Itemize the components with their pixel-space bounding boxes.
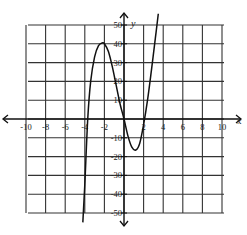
svg-text:4: 4 [161, 122, 166, 132]
function-graph: -10-8-6-4-22468105040302010-10-20-30-40-… [0, 0, 247, 235]
svg-text:-2: -2 [101, 122, 108, 132]
svg-text:8: 8 [200, 122, 204, 132]
svg-text:-10: -10 [20, 122, 31, 132]
svg-text:-40: -40 [111, 189, 122, 199]
svg-text:-30: -30 [111, 170, 122, 180]
svg-text:6: 6 [181, 122, 185, 132]
svg-text:10: 10 [218, 122, 227, 132]
y-axis-label: y [130, 18, 136, 29]
svg-text:-50: -50 [111, 208, 122, 218]
svg-text:-20: -20 [111, 152, 122, 162]
svg-text:40: 40 [114, 39, 123, 49]
x-axis-label: x [237, 116, 242, 126]
svg-text:30: 30 [114, 58, 123, 68]
svg-text:50: 50 [114, 20, 123, 30]
svg-text:-6: -6 [62, 122, 69, 132]
svg-text:-8: -8 [42, 122, 49, 132]
svg-text:-10: -10 [111, 133, 122, 143]
